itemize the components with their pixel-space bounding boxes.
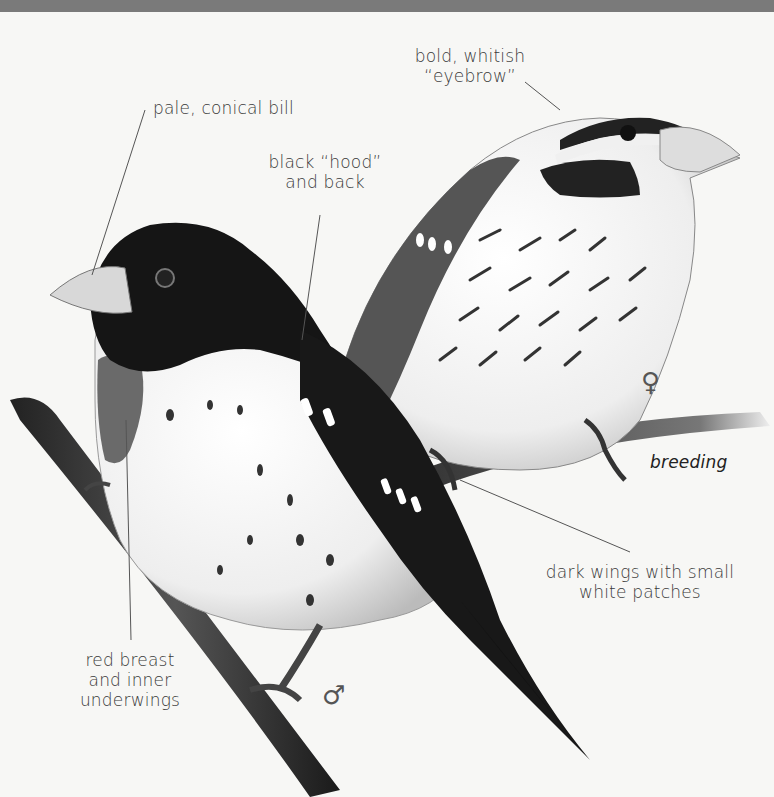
- label-eyebrow-line2: “eyebrow”: [380, 66, 560, 86]
- label-hood-line2: and back: [255, 172, 395, 192]
- female-symbol-icon: ♀: [641, 369, 660, 395]
- label-wings-line2: white patches: [520, 582, 760, 602]
- label-hood: black “hood” and back: [255, 152, 395, 192]
- label-breeding: breeding: [650, 452, 727, 472]
- label-breeding-text: breeding: [650, 452, 727, 472]
- label-bill: pale, conical bill: [153, 98, 294, 118]
- label-eyebrow-line1: bold, whitish: [380, 46, 560, 66]
- label-breast-line3: underwings: [60, 690, 200, 710]
- male-symbol-icon: ♂: [322, 682, 345, 708]
- label-wings: dark wings with small white patches: [520, 562, 760, 602]
- label-eyebrow: bold, whitish “eyebrow”: [380, 46, 560, 86]
- label-breast-line1: red breast: [60, 650, 200, 670]
- label-breast-line2: and inner: [60, 670, 200, 690]
- label-breast: red breast and inner underwings: [60, 650, 200, 710]
- label-wings-line1: dark wings with small: [520, 562, 760, 582]
- label-bill-text: pale, conical bill: [153, 98, 294, 118]
- label-hood-line1: black “hood”: [255, 152, 395, 172]
